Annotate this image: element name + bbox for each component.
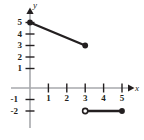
y-tick-label-1: 1 — [8, 64, 22, 73]
x-tick-label-1: 1 — [42, 94, 54, 103]
x-tick-label-2: 2 — [61, 94, 73, 103]
closed-point-5-neg2 — [119, 108, 125, 114]
line-segment-upper — [30, 23, 85, 46]
y-tick-label-2: 2 — [8, 53, 22, 62]
y-tick-label-4: 4 — [8, 30, 22, 39]
y-tick-label-5: 5 — [8, 18, 22, 27]
x-tick-label-4: 4 — [98, 94, 110, 103]
open-point-3-neg2 — [83, 108, 88, 113]
y-tick-label-3: 3 — [8, 41, 22, 50]
y-tick-label-neg1: -1 — [4, 95, 18, 104]
x-tick-label-5: 5 — [116, 94, 128, 103]
y-axis-label: y — [33, 1, 37, 10]
closed-point-3-3 — [82, 43, 88, 49]
graph-figure: x y 1 2 3 4 5 5 4 3 2 1 -1 -2 — [0, 0, 144, 140]
y-tick-label-neg2: -2 — [4, 107, 18, 116]
x-axis-label: x — [135, 84, 139, 93]
closed-point-0-5 — [27, 20, 33, 26]
x-axis-arrowhead — [128, 84, 135, 91]
x-tick-label-3: 3 — [79, 94, 91, 103]
